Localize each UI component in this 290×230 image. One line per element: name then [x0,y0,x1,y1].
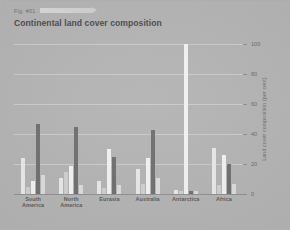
bar [227,164,231,194]
x-axis-category-label: NorthAmerica [52,196,90,218]
bar [212,148,216,195]
bar [21,158,25,194]
bar [102,188,106,194]
x-axis-category-label: Africa [205,196,243,218]
y-axis-tick [243,44,247,45]
bar [136,169,140,195]
bar [189,191,193,194]
bar [194,191,198,194]
y-axis-tick [243,164,247,165]
bar [97,181,101,195]
bar-group [167,44,205,194]
x-axis-category-label: Eurasia [90,196,128,218]
y-axis-tick [243,104,247,105]
bar [174,190,178,195]
bar [74,127,78,195]
bar [64,172,68,195]
figure-label-row: Fig. #01 [14,6,162,15]
y-axis-title: Land cover composition (per cent) [258,44,270,194]
figure-number-label: Fig. #01 [14,8,35,14]
bar [156,178,160,195]
bar-groups [14,44,243,194]
bar [59,178,63,195]
plot-area: 020406080100 [14,44,243,194]
bar [232,184,236,195]
x-axis-category-labels: SouthAmericaNorthAmericaEurasiaAustralia… [14,196,243,218]
bar [117,185,121,194]
y-axis-tick [243,194,247,195]
figure-progress-arrow [40,8,92,13]
bar [31,181,35,195]
bar [41,175,45,195]
bar [151,130,155,195]
bar [112,157,116,195]
bar [179,191,183,194]
chart-header: Fig. #01 Continental land cover composit… [14,6,162,28]
y-axis-tick-label: 60 [251,101,257,107]
x-axis-category-label: Antarctica [167,196,205,218]
y-axis-tick-label: 80 [251,71,257,77]
x-axis-category-label: SouthAmerica [14,196,52,218]
bar [79,185,83,194]
y-axis-tick [243,134,247,135]
bar [26,187,30,195]
y-axis-tick-label: 0 [251,191,254,197]
y-axis-title-text: Land cover composition (per cent) [261,77,267,160]
y-axis-tick [243,74,247,75]
bar-group [90,44,128,194]
bar [146,158,150,194]
bar-group [14,44,52,194]
bar [141,184,145,195]
bar [222,155,226,194]
bar [69,166,73,195]
bar [217,185,221,194]
bar-group [52,44,90,194]
bar-group [205,44,243,194]
x-axis-category-label: Australia [129,196,167,218]
bar-group [129,44,167,194]
bar [107,149,111,194]
gridline [14,194,243,195]
y-axis-tick-label: 40 [251,131,257,137]
bar [36,124,40,195]
y-axis-tick-label: 20 [251,161,257,167]
bar [184,44,188,194]
chart-title: Continental land cover composition [14,18,162,28]
